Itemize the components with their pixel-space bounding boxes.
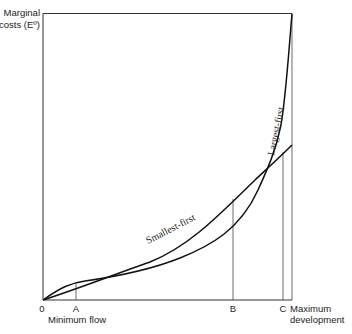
axes xyxy=(43,14,292,301)
series-largest-first xyxy=(43,14,292,300)
annotation-minimum-flow: Minimum flow xyxy=(48,314,106,325)
annotation-maximum-development-1: Maximum xyxy=(290,303,331,314)
x-tick-b: B xyxy=(230,303,236,314)
marginal-cost-chart: Marginal costs (Eº) Smallest-first Large… xyxy=(0,0,352,334)
series-smallest-first xyxy=(43,145,292,300)
x-tick-a: A xyxy=(73,303,80,314)
x-tick-0: 0 xyxy=(39,303,44,314)
y-axis-label-line-1: Marginal xyxy=(4,7,40,18)
label-largest-first: Largest-first xyxy=(265,106,286,157)
y-axis-label-line-2: costs (Eº) xyxy=(0,19,40,30)
annotation-maximum-development-2: development xyxy=(290,314,345,325)
x-tick-c: C xyxy=(280,303,287,314)
